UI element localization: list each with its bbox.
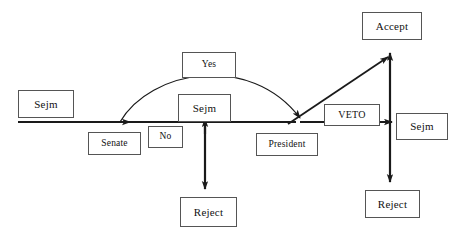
node-president-label: President [268,140,305,150]
node-decision-no-label: No [159,132,171,142]
node-sejm-start-label: Sejm [34,99,57,110]
node-reject-right-label: Reject [378,199,407,210]
node-decision-yes-label: Yes [202,60,216,70]
node-accept[interactable]: Accept [362,12,422,40]
node-sejm-middle-label: Sejm [193,103,216,114]
node-reject-left[interactable]: Reject [180,197,237,227]
node-reject-left-label: Reject [194,207,223,218]
node-decision-yes[interactable]: Yes [182,52,236,78]
node-sejm-middle[interactable]: Sejm [178,94,231,122]
node-decision-no[interactable]: No [148,126,183,148]
node-reject-right[interactable]: Reject [365,190,420,218]
node-senate-label: Senate [101,139,128,149]
node-senate[interactable]: Senate [88,132,141,155]
node-veto[interactable]: VETO [324,104,380,126]
flow-diagram-canvas: Sejm Senate No Yes Sejm Reject President… [0,0,461,242]
node-sejm-start[interactable]: Sejm [18,90,74,118]
node-sejm-end-label: Sejm [410,121,433,132]
node-president[interactable]: President [256,133,318,156]
node-veto-label: VETO [338,110,365,120]
node-accept-label: Accept [376,21,408,32]
node-sejm-end[interactable]: Sejm [396,113,448,140]
